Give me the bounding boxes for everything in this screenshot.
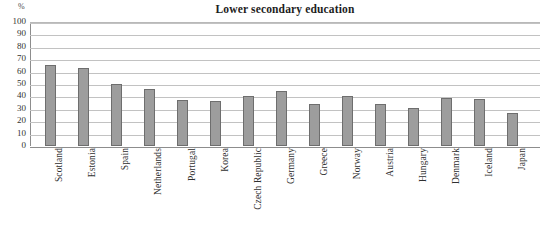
bar <box>507 113 518 146</box>
x-tick-label: Netherlands <box>153 148 163 195</box>
x-tick-label: Germany <box>286 148 296 184</box>
y-axis-tick-labels: 1009080706050403020100 <box>0 22 28 146</box>
bars-layer <box>30 23 540 146</box>
x-tick-label: Spain <box>120 148 130 170</box>
bar <box>78 68 89 146</box>
bar <box>111 84 122 146</box>
x-tick-label: Norway <box>352 148 362 179</box>
bar <box>342 96 353 146</box>
y-tick-label-40: 40 <box>0 91 26 100</box>
x-tick-label: Portugal <box>187 148 197 181</box>
x-tick-label: Japan <box>517 148 527 170</box>
x-tick-label: Iceland <box>484 148 494 177</box>
bar <box>375 104 386 146</box>
y-tick-label-70: 70 <box>0 54 26 63</box>
bar <box>144 89 155 146</box>
x-tick-label: Denmark <box>451 148 461 184</box>
bar <box>408 108 419 146</box>
x-tick-label: Korea <box>220 148 230 172</box>
x-tick-label: Estonia <box>87 148 97 177</box>
plot-area <box>30 22 540 146</box>
x-tick-label: Czech Republic <box>253 148 263 210</box>
bar <box>276 91 287 146</box>
bar <box>243 96 254 146</box>
bar <box>210 101 221 146</box>
x-tick-label: Hungary <box>418 148 428 182</box>
y-tick-label-60: 60 <box>0 67 26 76</box>
bar <box>177 100 188 146</box>
bar <box>441 98 452 146</box>
y-tick-label-50: 50 <box>0 79 26 88</box>
y-tick-label-0: 0 <box>0 141 26 150</box>
x-tick-label: Greece <box>319 148 329 176</box>
y-tick-label-10: 10 <box>0 129 26 138</box>
y-tick-label-20: 20 <box>0 116 26 125</box>
x-tick-label: Austria <box>385 148 395 177</box>
y-tick-label-30: 30 <box>0 104 26 113</box>
x-axis-category-labels: ScotlandEstoniaSpainNetherlandsPortugalK… <box>30 148 540 234</box>
y-tick-label-90: 90 <box>0 29 26 38</box>
bar <box>474 99 485 146</box>
y-tick-label-100: 100 <box>0 17 26 26</box>
bar <box>309 104 320 146</box>
bar <box>45 65 56 146</box>
x-tick-label: Scotland <box>54 148 64 182</box>
y-tick-label-80: 80 <box>0 42 26 51</box>
chart-title: Lower secondary education <box>0 3 546 15</box>
bar-chart: % Lower secondary education 100908070605… <box>0 0 546 235</box>
